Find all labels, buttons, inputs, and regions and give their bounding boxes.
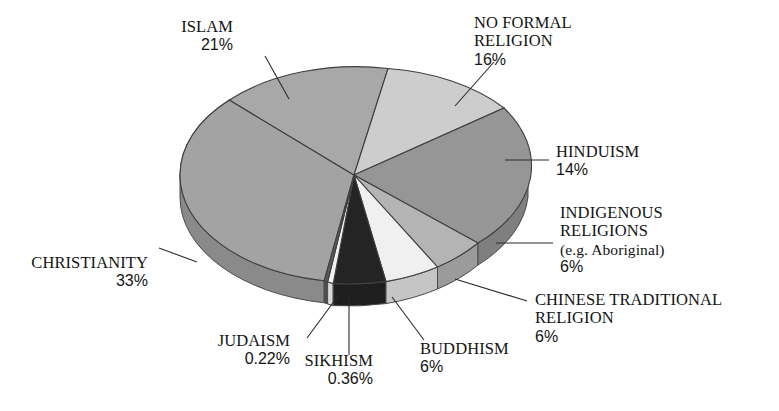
label-buddhism-name: BUDDHISM bbox=[420, 340, 509, 358]
label-chinese-traditional-religion-line1: CHINESE TRADITIONAL bbox=[535, 291, 722, 309]
label-judaism-name: JUDAISM bbox=[155, 332, 290, 350]
label-christianity-name: CHRISTIANITY bbox=[0, 254, 148, 272]
label-no-formal-religion-line1: NO FORMAL bbox=[474, 14, 572, 32]
label-buddhism-value: 6% bbox=[420, 358, 509, 376]
label-indigenous-religions: INDIGENOUS RELIGIONS (e.g. Aboriginal) 6… bbox=[560, 204, 665, 276]
label-no-formal-religion: NO FORMAL RELIGION 16% bbox=[474, 14, 572, 69]
label-indigenous-religions-value: 6% bbox=[560, 258, 665, 276]
label-no-formal-religion-line2: RELIGION bbox=[474, 32, 572, 50]
label-chinese-traditional-religion-value: 6% bbox=[535, 328, 722, 346]
leader-line-christianity bbox=[159, 248, 197, 262]
label-indigenous-religions-line3: (e.g. Aboriginal) bbox=[560, 241, 665, 258]
pie-wall-buddhism bbox=[333, 282, 386, 306]
leader-line-chinese-traditional-religion bbox=[455, 279, 527, 301]
label-buddhism: BUDDHISM 6% bbox=[420, 340, 509, 376]
label-hinduism: HINDUISM 14% bbox=[556, 143, 639, 179]
label-islam-value: 21% bbox=[108, 36, 233, 54]
label-indigenous-religions-line2: RELIGIONS bbox=[560, 222, 665, 240]
label-christianity: CHRISTIANITY 33% bbox=[0, 254, 148, 290]
pie-chart: ISLAM 21% NO FORMAL RELIGION 16% HINDUIS… bbox=[0, 0, 779, 411]
label-chinese-traditional-religion: CHINESE TRADITIONAL RELIGION 6% bbox=[535, 291, 722, 346]
label-sikhism-value: 0.36% bbox=[268, 370, 373, 388]
label-hinduism-name: HINDUISM bbox=[556, 143, 639, 161]
label-chinese-traditional-religion-line2: RELIGION bbox=[535, 309, 722, 327]
label-judaism-value: 0.22% bbox=[155, 350, 290, 368]
pie-wall-judaism bbox=[324, 281, 327, 304]
pie-wall-sikhism bbox=[328, 282, 334, 306]
label-judaism: JUDAISM 0.22% bbox=[155, 332, 290, 368]
label-indigenous-religions-line1: INDIGENOUS bbox=[560, 204, 665, 222]
label-hinduism-value: 14% bbox=[556, 161, 639, 179]
label-islam-name: ISLAM bbox=[108, 18, 233, 36]
label-no-formal-religion-value: 16% bbox=[474, 51, 572, 69]
leader-line-buddhism bbox=[392, 297, 424, 340]
label-islam: ISLAM 21% bbox=[108, 18, 233, 54]
label-christianity-value: 33% bbox=[0, 272, 148, 290]
